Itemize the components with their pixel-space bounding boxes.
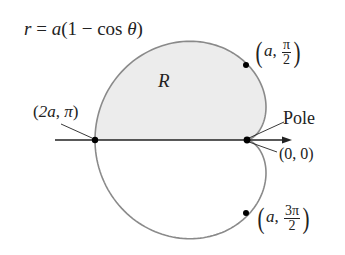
eq-theta: θ	[127, 18, 136, 39]
top-theta-fraction: π2	[282, 38, 291, 67]
point-left-label: (2a, π)	[33, 102, 78, 122]
eq-lhs: r	[24, 18, 31, 39]
point-pole-dot	[244, 137, 251, 144]
region-label: R	[158, 70, 170, 92]
bottom-theta-fraction: 3π2	[284, 204, 300, 233]
region-r-fill	[95, 41, 266, 140]
point-top-label: (a, π2)	[254, 37, 302, 67]
pole-label: Pole	[283, 108, 315, 129]
top-r: a	[264, 41, 273, 60]
axis-arrowhead-icon	[282, 137, 292, 144]
bottom-r: a	[266, 207, 275, 226]
eq-sign: =	[36, 18, 47, 39]
top-theta-den: 2	[282, 53, 291, 67]
leader-left	[61, 124, 92, 138]
point-bottom-dot	[243, 210, 249, 216]
point-top-dot	[243, 62, 249, 68]
left-r: 2a	[39, 102, 56, 121]
bottom-theta-den: 2	[284, 219, 300, 233]
eq-a: a	[52, 18, 62, 39]
leader-origin	[249, 142, 277, 152]
bottom-theta-num: 3π	[284, 204, 300, 219]
origin-label: (0, 0)	[279, 145, 314, 163]
equation-label: r = a(1 − cos θ)	[24, 18, 143, 40]
point-bottom-label: (a, 3π2)	[256, 203, 311, 233]
left-theta: π	[64, 102, 73, 121]
top-theta-num: π	[282, 38, 291, 53]
eq-body: (1 − cos	[61, 18, 127, 39]
eq-close: )	[137, 18, 143, 39]
point-left-dot	[92, 137, 98, 143]
